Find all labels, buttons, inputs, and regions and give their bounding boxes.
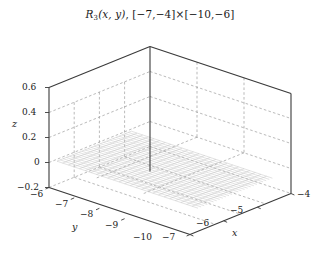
figure-3d-surface-plot: R3(x, y), [−7,−4]×[−10,−6] <box>0 0 320 261</box>
x-tick-label-1: −6 <box>196 219 209 228</box>
grid-left-panel <box>49 72 150 188</box>
z-axis-ticks <box>45 88 49 188</box>
y-tick-label-1: −7 <box>55 200 68 209</box>
x-tick-label-3: −4 <box>297 190 310 199</box>
z-axis-label: z <box>12 119 17 129</box>
x-axis-label: x <box>232 228 237 238</box>
x-tick-label-0: −7 <box>162 233 175 242</box>
x-tick-label-2: −5 <box>230 206 243 215</box>
y-tick-label-0: −6 <box>30 190 43 199</box>
y-tick-label-4: −10 <box>133 233 152 242</box>
z-tick-label-3: 0 <box>34 158 40 167</box>
grid-right-panel <box>150 62 291 193</box>
y-tick-label-2: −8 <box>80 210 93 219</box>
surface-wireframe <box>57 131 272 208</box>
z-tick-label-0: 0.6 <box>22 83 36 92</box>
y-tick-label-3: −9 <box>105 221 118 230</box>
plot-canvas <box>0 0 320 261</box>
axes-box-frame <box>49 47 291 235</box>
z-tick-label-1: 0.4 <box>22 108 36 117</box>
y-axis-label: y <box>72 222 77 232</box>
z-tick-label-2: 0.2 <box>22 133 36 142</box>
